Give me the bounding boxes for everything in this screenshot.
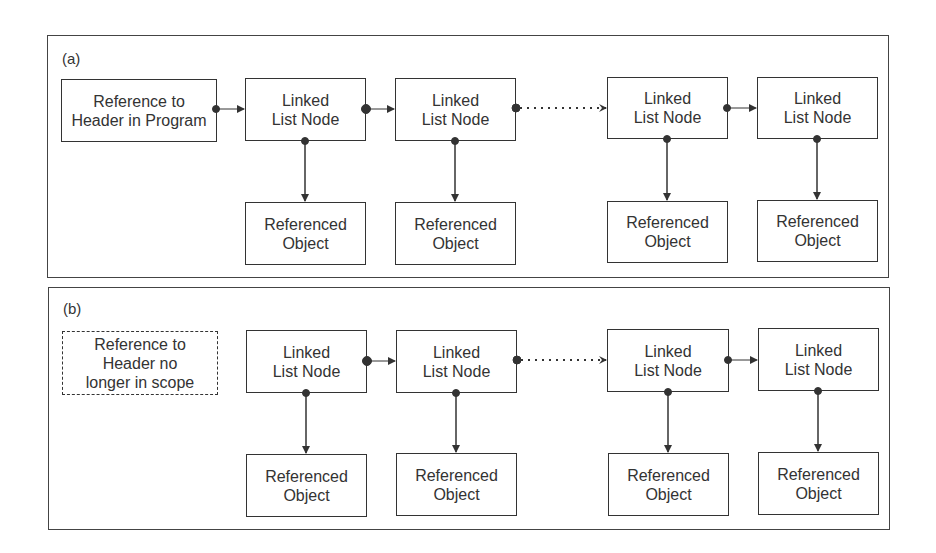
connector-arrows: [0, 0, 936, 553]
